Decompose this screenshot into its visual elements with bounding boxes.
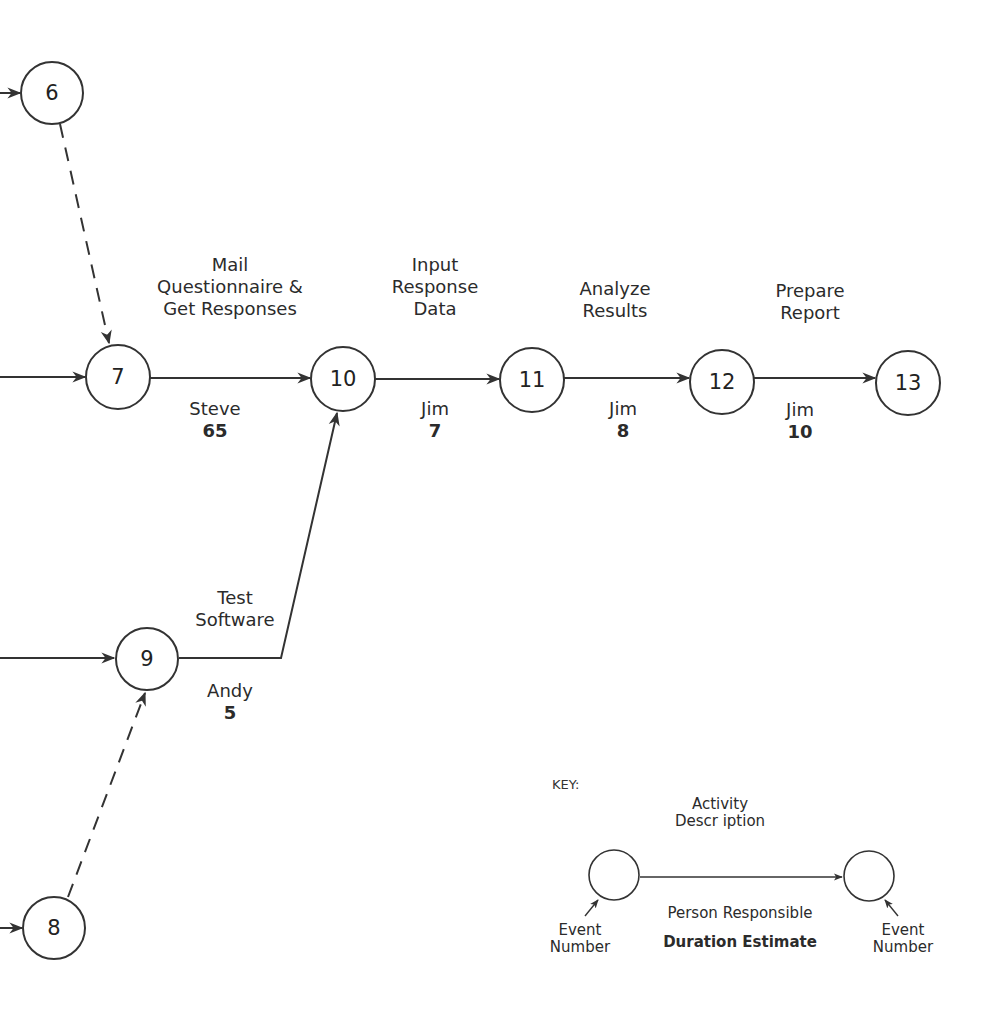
desc-line: Response (380, 276, 490, 298)
desc-line: Prepare (760, 280, 860, 302)
key-pointer-left (585, 900, 598, 916)
desc-line: Mail (150, 254, 310, 276)
key-duration-estimate: Duration Estimate (640, 934, 840, 951)
network-diagram (0, 0, 994, 1019)
dummy-edge-6-7 (60, 124, 109, 343)
desc-line: Software (185, 609, 285, 631)
activity-mail-description: Mail Questionnaire & Get Responses (150, 254, 310, 320)
desc-line: Descr iption (660, 813, 780, 830)
duration-estimate: 10 (760, 421, 840, 443)
key-pointer-right (885, 900, 898, 916)
desc-line: Analyze (565, 278, 665, 300)
desc-line: Test (185, 587, 285, 609)
duration-estimate: 5 (190, 702, 270, 724)
person-responsible: Andy (190, 680, 270, 702)
duration-estimate: 7 (395, 420, 475, 442)
node-7-number: 7 (88, 365, 148, 389)
activity-mail-assignment: Steve 65 (165, 398, 265, 442)
desc-line: Data (380, 298, 490, 320)
key-event-right (844, 851, 894, 901)
node-13-number: 13 (878, 371, 938, 395)
key-person-responsible: Person Responsible (640, 905, 840, 922)
desc-line: Activity (660, 796, 780, 813)
node-6-number: 6 (22, 81, 82, 105)
activity-input-description: Input Response Data (380, 254, 490, 320)
desc-line: Questionnaire & (150, 276, 310, 298)
label-line: Event (540, 922, 620, 939)
activity-prepare-assignment: Jim 10 (760, 399, 840, 443)
node-8-number: 8 (24, 916, 84, 940)
key-event-number-left: Event Number (540, 922, 620, 956)
activity-analyze-assignment: Jim 8 (583, 398, 663, 442)
node-9-number: 9 (117, 647, 177, 671)
key-title: KEY: (552, 777, 579, 792)
desc-line: Results (565, 300, 665, 322)
desc-line: Input (380, 254, 490, 276)
node-11-number: 11 (502, 368, 562, 392)
person-responsible: Jim (395, 398, 475, 420)
label-line: Number (863, 939, 943, 956)
person-responsible: Jim (760, 399, 840, 421)
node-12-number: 12 (692, 370, 752, 394)
activity-test-assignment: Andy 5 (190, 680, 270, 724)
person-responsible: Steve (165, 398, 265, 420)
duration-estimate: 8 (583, 420, 663, 442)
dummy-edge-8-9 (68, 693, 145, 897)
activity-analyze-description: Analyze Results (565, 278, 665, 322)
duration-estimate: 65 (165, 420, 265, 442)
key-event-number-right: Event Number (863, 922, 943, 956)
activity-prepare-description: Prepare Report (760, 280, 860, 324)
label-line: Number (540, 939, 620, 956)
key-activity-description: Activity Descr iption (660, 796, 780, 830)
key-event-left (589, 850, 639, 900)
person-responsible: Jim (583, 398, 663, 420)
activity-input-assignment: Jim 7 (395, 398, 475, 442)
node-10-number: 10 (313, 367, 373, 391)
label-line: Event (863, 922, 943, 939)
activity-test-description: Test Software (185, 587, 285, 631)
desc-line: Report (760, 302, 860, 324)
desc-line: Get Responses (150, 298, 310, 320)
